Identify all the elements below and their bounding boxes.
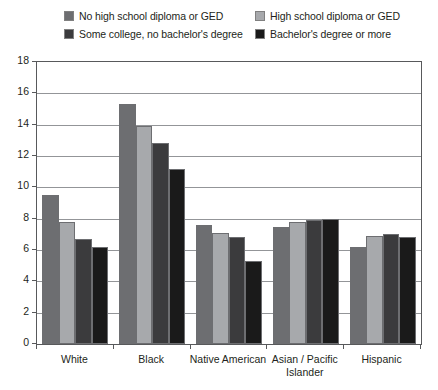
x-axis-tick bbox=[343, 344, 344, 349]
x-axis-label: Asian / Pacific Islander bbox=[266, 353, 343, 378]
y-axis-tick: 16 bbox=[0, 92, 36, 93]
x-axis-label: Hispanic bbox=[343, 353, 420, 366]
legend-item-some-college: Some college, no bachelor's degree bbox=[64, 28, 243, 40]
bar-group bbox=[344, 62, 421, 344]
y-tick-label: 4 bbox=[23, 273, 29, 286]
y-axis: 024681012141618 bbox=[0, 61, 36, 344]
legend-swatch-some-college-icon bbox=[64, 29, 74, 39]
x-axis-label: Native American bbox=[190, 353, 267, 366]
y-tick-label: 12 bbox=[17, 148, 29, 161]
bar bbox=[75, 239, 92, 344]
y-axis-tick: 18 bbox=[0, 61, 36, 62]
y-tick-label: 2 bbox=[23, 305, 29, 318]
bar bbox=[289, 222, 306, 344]
y-tick-label: 10 bbox=[17, 179, 29, 192]
y-axis-tick: 2 bbox=[0, 312, 36, 313]
y-tick-label: 8 bbox=[23, 211, 29, 224]
legend-swatch-bachelors-icon bbox=[255, 29, 265, 39]
bar-group bbox=[114, 62, 191, 344]
legend-label-hs: High school diploma or GED bbox=[270, 10, 400, 22]
y-tick-label: 16 bbox=[17, 85, 29, 98]
bar bbox=[169, 169, 186, 344]
bar bbox=[42, 195, 59, 344]
bar bbox=[322, 219, 339, 344]
bar-group bbox=[267, 62, 344, 344]
y-axis-tick: 12 bbox=[0, 155, 36, 156]
y-axis-tick: 10 bbox=[0, 186, 36, 187]
legend-swatch-no-hs-icon bbox=[64, 11, 74, 21]
bar bbox=[59, 222, 76, 344]
x-axis-tick bbox=[420, 344, 421, 349]
bar bbox=[245, 261, 262, 344]
bar bbox=[273, 227, 290, 345]
legend-label-bachelors: Bachelor's degree or more bbox=[270, 28, 391, 40]
x-axis-tick bbox=[36, 344, 37, 349]
bar bbox=[92, 247, 109, 344]
legend-item-no-hs: No high school diploma or GED bbox=[64, 10, 223, 22]
legend-item-bachelors: Bachelor's degree or more bbox=[255, 28, 391, 40]
legend-label-some-college: Some college, no bachelor's degree bbox=[79, 28, 243, 40]
bar bbox=[229, 237, 246, 344]
bars-layer bbox=[37, 62, 421, 344]
y-axis-tick: 14 bbox=[0, 124, 36, 125]
y-tick-label: 0 bbox=[23, 336, 29, 349]
bar bbox=[350, 247, 367, 344]
y-axis-tick: 0 bbox=[0, 343, 36, 344]
bar bbox=[383, 234, 400, 344]
y-axis-tick: 6 bbox=[0, 249, 36, 250]
legend-swatch-hs-icon bbox=[255, 11, 265, 21]
bar bbox=[119, 104, 136, 344]
bar bbox=[212, 233, 229, 344]
x-axis-label: White bbox=[36, 353, 113, 366]
x-axis-tick bbox=[113, 344, 114, 349]
y-tick-label: 18 bbox=[17, 54, 29, 67]
chart-legend: No high school diploma or GED High schoo… bbox=[0, 6, 438, 48]
plot-area bbox=[36, 61, 422, 345]
legend-item-hs: High school diploma or GED bbox=[255, 10, 400, 22]
legend-label-no-hs: No high school diploma or GED bbox=[79, 10, 223, 22]
y-axis-tick: 8 bbox=[0, 218, 36, 219]
bar bbox=[152, 143, 169, 344]
x-axis: WhiteBlackNative AmericanAsian / Pacific… bbox=[36, 344, 421, 390]
y-tick-label: 6 bbox=[23, 242, 29, 255]
bar-group bbox=[191, 62, 268, 344]
x-axis-tick bbox=[190, 344, 191, 349]
bar bbox=[399, 237, 416, 344]
bar bbox=[366, 236, 383, 344]
y-axis-tick: 4 bbox=[0, 280, 36, 281]
bar-group bbox=[37, 62, 114, 344]
y-tick-label: 14 bbox=[17, 117, 29, 130]
x-axis-tick bbox=[266, 344, 267, 349]
bar bbox=[196, 225, 213, 344]
bar bbox=[136, 126, 153, 344]
bar bbox=[306, 220, 323, 344]
x-axis-label: Black bbox=[113, 353, 190, 366]
